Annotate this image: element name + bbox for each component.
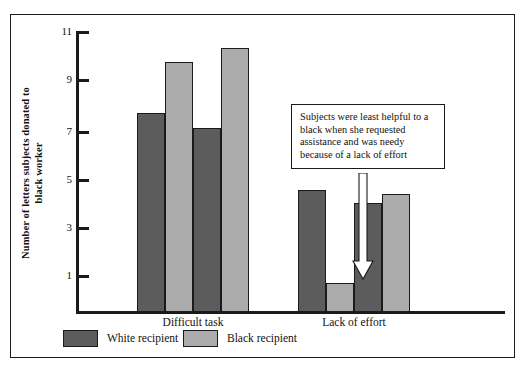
y-tick-1	[78, 275, 89, 278]
y-tick-9	[78, 79, 89, 82]
y-tick-5	[78, 179, 89, 182]
legend-label-white-recipient: White recipient	[107, 331, 178, 345]
legend-swatch-white-recipient	[63, 330, 98, 347]
y-tick-label-11: 11	[48, 26, 72, 37]
y-tick-label-7-wrap: 7	[46, 126, 72, 137]
y-tick-label-1-wrap: 1	[46, 270, 72, 281]
plot-area: Number of letters subjects donated to bl…	[0, 0, 526, 368]
bar-difficult-task-black-recipient-1	[165, 62, 193, 312]
y-tick-label-9-wrap: 9	[46, 74, 72, 85]
y-tick-3	[78, 227, 89, 230]
y-tick-label-5: 5	[48, 174, 72, 185]
y-tick-7	[78, 131, 89, 134]
y-tick-label-3: 3	[48, 222, 72, 233]
y-tick-label-1: 1	[48, 270, 72, 281]
bar-difficult-task-white-recipient-1	[137, 113, 165, 312]
legend-label-black-recipient: Black recipient	[227, 331, 297, 345]
annotation-callout: Subjects were least helpful to a black w…	[291, 104, 445, 169]
legend-swatch-black-recipient	[183, 330, 218, 347]
chart-page: Number of letters subjects donated to bl…	[0, 0, 526, 368]
y-tick-label-11-wrap: 11	[46, 26, 72, 37]
bar-difficult-task-white-recipient-2	[193, 128, 221, 312]
y-tick-label-7: 7	[48, 126, 72, 137]
bar-lack-of-effort-white-recipient-1	[298, 190, 326, 312]
y-tick-label-9: 9	[48, 74, 72, 85]
bar-lack-of-effort-black-recipient-2	[382, 194, 410, 312]
bar-lack-of-effort-black-recipient-1	[326, 283, 354, 312]
y-tick-11	[78, 31, 89, 34]
y-tick-label-5-wrap: 5	[46, 174, 72, 185]
bar-difficult-task-black-recipient-2	[221, 48, 249, 312]
chart-legend: White recipient Black recipient	[0, 328, 526, 352]
callout-arrow-icon	[352, 173, 374, 283]
y-axis-line	[76, 31, 79, 314]
legend-item-black-recipient: Black recipient	[183, 328, 333, 348]
y-tick-label-3-wrap: 3	[46, 222, 72, 233]
y-axis-title: Number of letters subjects donated to bl…	[19, 78, 45, 268]
